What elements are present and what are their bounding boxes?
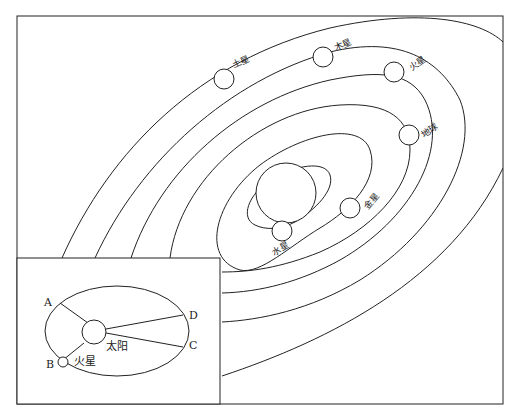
label-jupiter: 木星 (332, 36, 353, 54)
planet-jupiter (313, 47, 333, 67)
planet-saturn (214, 69, 234, 89)
planet-earth (399, 125, 419, 145)
point-C: C (189, 339, 197, 352)
inset-sun (82, 320, 106, 344)
label-mars: 火星 (407, 55, 427, 74)
label-venus: 金星 (362, 190, 382, 211)
point-D: D (189, 309, 198, 322)
planet-venus (340, 198, 360, 218)
inset-box (17, 258, 220, 404)
planet-mars (384, 62, 404, 82)
point-A: A (43, 296, 53, 309)
planet-mercury (272, 221, 292, 241)
inset-sun-label: 太阳 (106, 340, 128, 353)
inset-mars (58, 357, 68, 367)
solar-system-diagram: 水星 金星 地球 火星 木星 土星 太阳 火星 A B C D (0, 0, 517, 419)
label-saturn: 土星 (230, 53, 251, 71)
label-earth: 地球 (418, 121, 439, 140)
inset-mars-label: 火星 (74, 355, 96, 368)
point-B: B (46, 358, 54, 371)
sun-main (256, 163, 316, 223)
